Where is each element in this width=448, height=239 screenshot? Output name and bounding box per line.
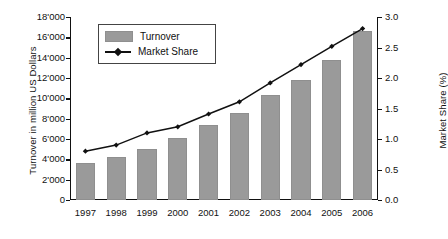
market-share-marker — [206, 111, 211, 116]
market-share-marker — [83, 149, 88, 154]
market-share-marker — [144, 130, 149, 135]
legend-label-market-share: Market Share — [138, 46, 198, 57]
chart-legend: Turnover Market Share — [98, 24, 216, 64]
legend-label-turnover: Turnover — [140, 31, 180, 42]
legend-item-turnover: Turnover — [105, 29, 207, 44]
legend-swatch-icon — [105, 31, 133, 42]
market-share-marker — [175, 124, 180, 129]
legend-item-market-share: Market Share — [105, 44, 207, 59]
legend-line-diamond-icon — [105, 47, 131, 56]
market-share-marker — [114, 143, 119, 148]
